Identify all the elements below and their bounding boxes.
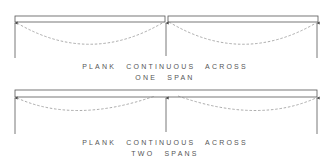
- plank-left: [15, 16, 165, 22]
- diagram-two-spans: [15, 90, 317, 134]
- caption-one-span-line2: ONE SPAN: [0, 74, 330, 81]
- caption-two-spans-line1: PLANK CONTINUOUS ACROSS: [0, 139, 330, 146]
- caption-one-span-line1: PLANK CONTINUOUS ACROSS: [0, 63, 330, 70]
- plank-right: [168, 16, 318, 22]
- plank-continuous: [15, 90, 317, 97]
- deflection-curve-left: [17, 96, 155, 111]
- caption-two-spans-line2: TWO SPANS: [0, 150, 330, 157]
- diagram-one-span: [15, 16, 318, 58]
- deflection-curve-right: [178, 96, 316, 111]
- deflection-curve-right: [169, 22, 316, 44]
- deflection-curve-left: [17, 22, 164, 44]
